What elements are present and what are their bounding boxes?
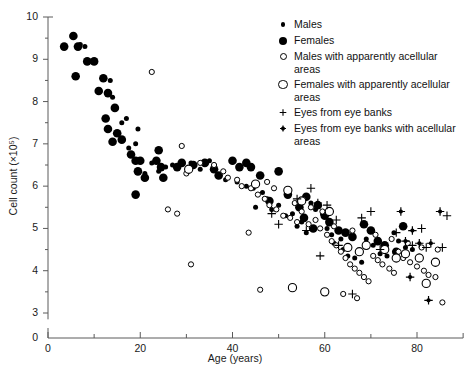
y-tick-label: 7 [14, 137, 38, 149]
x-tick-label: 0 [36, 342, 60, 354]
y-tick-label: 8 [14, 95, 38, 107]
legend-label: Males with apparently acellular areas [294, 50, 462, 75]
legend-label: Eyes from eye banks with acellular areas [294, 122, 462, 147]
y-tick-label: 9 [14, 52, 38, 64]
females-marker-icon [272, 34, 294, 47]
plus-marker-icon [272, 106, 294, 119]
legend-label: Males [294, 18, 322, 31]
males-open-marker-icon [272, 50, 294, 63]
legend-label: Females [294, 34, 334, 47]
x-tick-label: 20 [128, 342, 152, 354]
x-tick-label: 60 [313, 342, 337, 354]
y-tick-label: 5 [14, 221, 38, 233]
plus-filled-marker-icon [272, 122, 294, 135]
y-tick-label: 6 [14, 179, 38, 191]
x-tick-label: 40 [221, 342, 245, 354]
legend-item-females-acellular: Females with apparently acellular areas [272, 78, 462, 103]
legend-item-eye-banks: Eyes from eye banks [272, 106, 462, 119]
legend-label: Females with apparently acellular areas [294, 78, 462, 103]
legend-item-females: Females [272, 34, 462, 47]
legend-item-males: Males [272, 18, 462, 31]
legend: Males Females Males with apparently acel… [272, 18, 462, 150]
females-open-marker-icon [272, 78, 294, 91]
x-tick-label: 80 [405, 342, 429, 354]
scatter-plot-figure: Age (years) Cell count (×10⁵) Males Fema… [0, 0, 470, 374]
y-tick-label: 4 [14, 264, 38, 276]
legend-item-males-acellular: Males with apparently acellular areas [272, 50, 462, 75]
y-tick-label: 3 [14, 306, 38, 318]
males-marker-icon [272, 18, 294, 31]
legend-label: Eyes from eye banks [294, 106, 392, 119]
y-tick-label: 10 [14, 10, 38, 22]
y-origin-label: 0 [14, 331, 38, 343]
legend-item-eye-banks-acellular: Eyes from eye banks with acellular areas [272, 122, 462, 147]
